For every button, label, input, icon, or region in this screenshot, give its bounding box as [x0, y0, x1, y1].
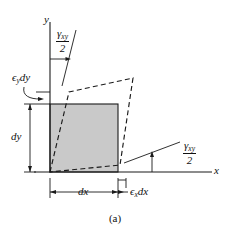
dx-dimension-arrowhead-left	[50, 190, 56, 194]
shear-strain-right-denominator: 2	[182, 154, 197, 166]
figure-caption: (a)	[0, 212, 230, 224]
epsilon-y-dy-label: ϵydy	[12, 72, 30, 84]
y-axis-label: y	[44, 14, 49, 25]
epsilon-y-dy-text: dy	[20, 71, 30, 83]
shear-strain-top-numerator: γxy	[55, 28, 70, 41]
dx-dimension-label: dx	[78, 186, 88, 197]
epsilon-x-dx-text: dx	[138, 185, 148, 197]
figure-canvas	[0, 0, 230, 233]
shear-strain-label-top: γxy 2	[55, 28, 70, 54]
undeformed-element-fill	[50, 104, 118, 172]
shear-strain-right-numerator: γxy	[182, 140, 197, 153]
dy-dimension-arrowhead-bottom	[28, 166, 32, 172]
dy-dimension-label: dy	[11, 131, 21, 142]
gamma-subscript-right: xy	[188, 144, 195, 153]
gamma-subscript-top: xy	[61, 32, 68, 41]
shear-strain-top-denominator: 2	[55, 42, 70, 54]
shear-strain-label-right: γxy 2	[182, 140, 197, 166]
dy-dimension-arrowhead-top	[28, 104, 32, 110]
epsilon-x-dx-label: ϵxdx	[130, 186, 148, 198]
dx-dimension-arrowhead-right	[112, 190, 118, 194]
x-axis-label: x	[214, 165, 219, 176]
epsilon-x-pointer-arrowhead	[118, 190, 124, 194]
strain-element-figure: y x γxy 2 γxy 2 ϵydy dy dx ϵxdx (a)	[0, 0, 230, 233]
epsilon-y-hook-curve	[24, 87, 40, 99]
epsilon-y-hook-arrowhead	[38, 97, 44, 101]
